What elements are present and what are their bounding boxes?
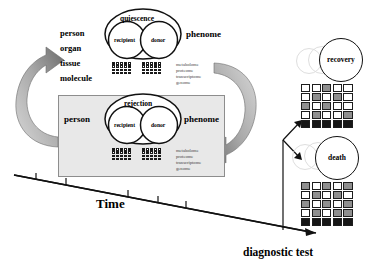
diagnostic-test-label: diagnostic test [243, 246, 313, 258]
outcome-cell [312, 84, 321, 92]
outcome-cell [312, 218, 321, 226]
outcome-cell [333, 111, 342, 119]
outcome-cell [322, 102, 331, 110]
outcome-cell [322, 209, 331, 217]
outcome-cell [343, 218, 352, 226]
outcome-cell [322, 182, 331, 190]
outcome-cell [343, 111, 352, 119]
outcome-cell [312, 111, 321, 119]
outcome-cell [312, 209, 321, 217]
outcome-cell [312, 182, 321, 190]
outcome-grid-death [301, 182, 353, 226]
outcome-cell [312, 191, 321, 199]
outcome-cell [301, 209, 310, 217]
outcome-cell [301, 191, 310, 199]
outcome-cell [322, 120, 331, 128]
outcome-cell [343, 84, 352, 92]
outcome-circle-death: death [315, 136, 359, 180]
outcome-cell [333, 200, 342, 208]
outcome-cell [333, 84, 342, 92]
outcome-cell [301, 182, 310, 190]
outcome-cell [312, 120, 321, 128]
outcome-cell [343, 93, 352, 101]
outcome-cell [343, 182, 352, 190]
outcome-cell [322, 200, 331, 208]
outcome-cell [333, 218, 342, 226]
outcome-cell [343, 209, 352, 217]
outcome-cell [312, 102, 321, 110]
outcome-cell [343, 191, 352, 199]
outcome-cell [301, 200, 310, 208]
outcome-cell [322, 84, 331, 92]
outcome-cell [322, 111, 331, 119]
outcome-grid-recovery [301, 84, 353, 128]
outcome-cell [343, 120, 352, 128]
outcome-cell [333, 120, 342, 128]
outcome-cell [312, 200, 321, 208]
outcome-label-recovery: recovery [327, 56, 355, 64]
outcome-cell [343, 200, 352, 208]
outcome-cell [301, 111, 310, 119]
outcome-cell [301, 102, 310, 110]
figure-canvas: person organ tissue molecule quiescence … [0, 0, 375, 270]
outcome-cell [343, 102, 352, 110]
branch-arrows [0, 0, 375, 270]
outcome-cell [333, 191, 342, 199]
outcome-circle-recovery: recovery [319, 38, 363, 82]
outcome-cell [322, 218, 331, 226]
outcome-cell [333, 102, 342, 110]
outcome-cell [312, 93, 321, 101]
outcome-cell [322, 93, 331, 101]
outcome-cell [301, 93, 310, 101]
outcome-cell [322, 191, 331, 199]
outcome-cell [301, 84, 310, 92]
outcome-cell [333, 182, 342, 190]
outcome-cell [333, 209, 342, 217]
outcome-cell [301, 218, 310, 226]
outcome-label-death: death [328, 154, 346, 162]
outcome-cell [301, 120, 310, 128]
outcome-cell [333, 93, 342, 101]
